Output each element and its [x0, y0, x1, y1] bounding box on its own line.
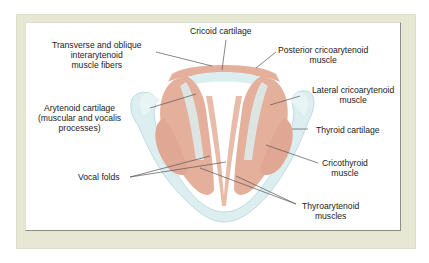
label-cricothyroid-muscle: Cricothyroid muscle	[322, 158, 368, 178]
label-transverse-oblique-interarytenoid: Transverse and oblique interarytenoid mu…	[52, 40, 142, 70]
label-arytenoid-cartilage: Arytenoid cartilage (muscular and vocali…	[38, 103, 121, 133]
label-posterior-cricoarytenoid: Posterior cricoarytenoid muscle	[278, 45, 368, 65]
label-lateral-cricoarytenoid: Lateral cricoarytenoid muscle	[312, 85, 394, 105]
label-thyroid-cartilage: Thyroid cartilage	[316, 125, 380, 135]
label-thyroarytenoid-muscles: Thyroarytenoid muscles	[302, 201, 359, 221]
label-cricoid-cartilage: Cricoid cartilage	[190, 26, 252, 36]
label-vocal-folds: Vocal folds	[78, 172, 120, 182]
